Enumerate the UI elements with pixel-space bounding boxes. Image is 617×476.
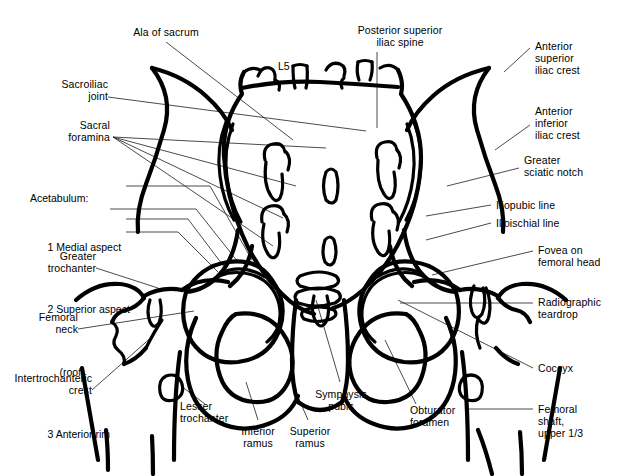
label-sacroiliac-joint: Sacroiliac joint: [14, 78, 108, 102]
label-symphysis-pubis: Symphysis pubis: [305, 388, 377, 412]
label-coccyx: Coccyx: [538, 362, 608, 374]
label-obturator-foramen: Obturator foramen: [410, 404, 490, 428]
label-anterior-superior-iliac-crest: Anterior superior iliac crest: [535, 40, 615, 77]
label-anterior-inferior-iliac-crest: Anterior inferior iliac crest: [535, 105, 615, 142]
label-posterior-superior-iliac-spine: Posterior superior iliac spine: [330, 24, 470, 48]
acetabulum-item-2b: (roof): [30, 353, 130, 390]
acetabulum-item-2-text: Superior aspect: [56, 303, 130, 315]
radiographic-teardrop: [148, 286, 490, 348]
label-lesser-trochanter: Lesser trochanter: [180, 400, 260, 424]
label-greater-sciatic-notch: Greater sciatic notch: [524, 154, 616, 178]
acetabulum-item-3-text: Anterior rim: [56, 428, 110, 440]
label-radiographic-teardrop: Radiographic teardrop: [538, 296, 617, 320]
label-ilioischial-line: Ilioischial line: [496, 217, 606, 229]
sacral-foramina: [262, 142, 401, 265]
lumbar-vertebra-l5: [242, 61, 398, 91]
acetabulum-item-2: 2 Superior aspect: [30, 291, 130, 328]
acetabulum-item-1-text: Medial aspect: [56, 241, 121, 253]
label-femoral-shaft: Femoral shaft, upper 1/3: [538, 403, 616, 440]
label-superior-ramus: Superior ramus: [276, 425, 344, 449]
acetabulum-item-1: 1 Medial aspect: [30, 229, 130, 266]
label-vertebra-l5: L5: [278, 60, 290, 72]
acetabulum-heading: Acetabulum:: [30, 192, 130, 204]
acetabula: [183, 261, 459, 362]
acetabulum-item-2b-text: (roof): [60, 366, 85, 378]
label-ala-of-sacrum: Ala of sacrum: [96, 26, 236, 38]
label-iliopubic-line: Iliopubic line: [496, 199, 606, 211]
label-sacral-foramina: Sacral foramina: [14, 119, 110, 143]
anatomy-figure: Ala of sacrum Posterior superior iliac s…: [0, 0, 617, 476]
iliac-wings: [138, 68, 504, 292]
acetabulum-legend: Acetabulum: 1 Medial aspect 2 Superior a…: [30, 167, 130, 476]
label-fovea-on-femoral-head: Fovea on femoral head: [538, 244, 617, 268]
acetabulum-item-3: 3 Anterior rim: [30, 415, 130, 452]
symphysis-pubis: [295, 272, 340, 322]
